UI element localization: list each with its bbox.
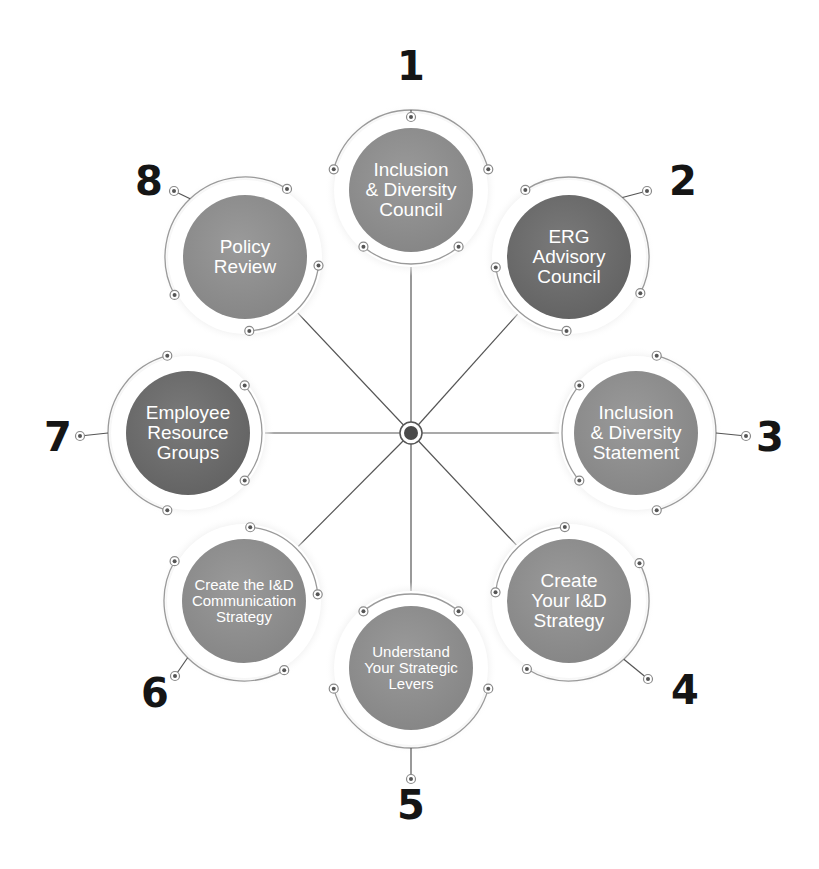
connector-dot-icon [329,684,338,693]
node-label-line: & Diversity [591,423,682,443]
connector-dot-icon [163,506,172,515]
connector-dot-icon [484,165,493,174]
node-label-line: Create the I&D [192,577,296,593]
node-label-3[interactable]: Inclusion& DiversityStatement [576,371,696,495]
node-label-line: ERG [533,227,606,247]
node-label-line: Your I&D [531,591,606,611]
connector-dot-icon [484,684,493,693]
step-number-5: 5 [397,785,425,825]
connector-dot-icon [491,588,500,597]
connector-dot-icon [562,326,571,335]
connector-dot-icon [329,165,338,174]
node-label-line: Your Strategic [364,660,458,676]
node-label-8[interactable]: PolicyReview [185,195,305,319]
node-label-line: Council [533,267,606,287]
connector-dot-icon [170,557,179,566]
node-label-line: Strategy [192,609,296,625]
step-number-3: 3 [756,417,784,457]
radial-diagram: Inclusion& DiversityCouncil1ERGAdvisoryC… [0,0,819,869]
endpoint-dot-icon [407,113,416,122]
node-label-line: Understand [364,644,458,660]
connector-dot-icon [280,666,289,675]
node-label-line: Strategy [531,611,606,631]
connector-dot-icon [313,590,322,599]
node-label-6[interactable]: Create the I&DCommunicationStrategy [184,539,304,663]
connector-dot-icon [636,289,645,298]
node-label-line: & Diversity [366,180,457,200]
node-label-line: Create [531,571,606,591]
connector-dot-icon [652,351,661,360]
node-label-4[interactable]: CreateYour I&DStrategy [509,539,629,663]
node-label-line: Groups [146,443,231,463]
node-label-line: Inclusion [591,403,682,423]
node-label-line: Employee [146,403,231,423]
endpoint-dot-icon [76,432,85,441]
step-number-7: 7 [44,417,72,457]
connector-dot-icon [246,523,255,532]
endpoint-dot-icon [171,672,180,681]
node-label-line: Inclusion [366,160,457,180]
step-number-4: 4 [671,670,699,710]
step-number-1: 1 [397,46,425,86]
node-label-2[interactable]: ERGAdvisoryCouncil [509,195,629,319]
connector-dot-icon [521,185,530,194]
node-label-5[interactable]: UnderstandYour StrategicLevers [351,606,471,730]
endpoint-dot-icon [644,675,653,684]
connector-dot-icon [635,559,644,568]
connector-dot-icon [245,326,254,335]
center-hub-icon [400,422,422,444]
endpoint-dot-icon [742,432,751,441]
endpoint-dot-icon [643,187,652,196]
node-label-line: Resource [146,423,231,443]
node-label-line: Review [214,257,276,277]
node-label-line: Advisory [533,247,606,267]
node-label-7[interactable]: EmployeeResourceGroups [128,371,248,495]
connector-dot-icon [283,184,292,193]
step-number-2: 2 [669,161,697,201]
connector-dot-icon [170,290,179,299]
step-number-6: 6 [141,673,169,713]
node-label-line: Policy [214,237,276,257]
connector-dot-icon [491,263,500,272]
connector-dot-icon [652,506,661,515]
connector-dot-icon [560,523,569,532]
connector-dot-icon [163,351,172,360]
node-label-1[interactable]: Inclusion& DiversityCouncil [351,128,471,252]
node-label-line: Council [366,200,457,220]
step-number-8: 8 [135,161,163,201]
connector-dot-icon [522,665,531,674]
node-label-line: Communication [192,593,296,609]
connector-dot-icon [314,261,323,270]
node-label-line: Levers [364,676,458,692]
node-label-line: Statement [591,443,682,463]
endpoint-dot-icon [170,187,179,196]
